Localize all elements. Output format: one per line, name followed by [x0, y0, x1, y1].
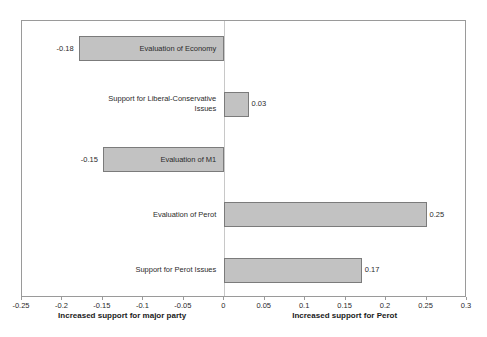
x-tick-mark [102, 297, 103, 300]
x-tick-label: -0.15 [93, 301, 110, 310]
x-tick-mark [21, 297, 22, 300]
bar-value-label: -0.18 [57, 44, 74, 54]
x-tick-label: 0 [221, 301, 225, 310]
bar-category-label: Evaluation of M1 [160, 155, 216, 165]
bar-value-label: -0.15 [81, 155, 98, 165]
x-tick-mark [264, 297, 265, 300]
x-tick-label: 0.3 [461, 301, 471, 310]
x-tick-mark [61, 297, 62, 300]
x-tick-label: 0.2 [380, 301, 390, 310]
bar-category-label: Support for Perot Issues [135, 265, 216, 275]
bar-value-label: 0.25 [430, 210, 445, 220]
x-axis-title-right: Increased support for Perot [292, 311, 397, 320]
x-tick-label: 0.05 [256, 301, 271, 310]
x-tick-mark [426, 297, 427, 300]
bar-category-label: Evaluation of Economy [140, 44, 217, 54]
bar[interactable] [224, 92, 248, 117]
x-tick-mark [223, 297, 224, 300]
bar-category-label: Support for Liberal-Conservative Issues [96, 94, 216, 114]
x-tick-label: -0.25 [12, 301, 29, 310]
plot-area: Evaluation of Economy-0.18Support for Li… [22, 21, 465, 296]
x-tick-label: 0.15 [337, 301, 352, 310]
x-tick-mark [304, 297, 305, 300]
x-tick-label: -0.2 [55, 301, 68, 310]
chart-screenshot: Evaluation of Economy-0.18Support for Li… [0, 0, 487, 337]
x-tick-label: 0.1 [299, 301, 309, 310]
bar-category-label: Evaluation of Perot [153, 210, 216, 220]
bar-value-label: 0.17 [365, 265, 380, 275]
x-tick-label: -0.05 [174, 301, 191, 310]
x-axis: -0.25-0.2-0.15-0.1-0.0500.050.10.150.20.… [21, 297, 466, 337]
bar[interactable] [224, 258, 362, 283]
x-tick-mark [183, 297, 184, 300]
x-tick-mark [385, 297, 386, 300]
plot-frame: Evaluation of Economy-0.18Support for Li… [21, 20, 466, 297]
x-tick-label: 0.25 [418, 301, 433, 310]
x-tick-label: -0.1 [136, 301, 149, 310]
bar[interactable] [224, 202, 426, 227]
x-tick-mark [142, 297, 143, 300]
x-tick-mark [466, 297, 467, 300]
zero-reference-line [224, 21, 225, 296]
x-tick-mark [345, 297, 346, 300]
bar-value-label: 0.03 [252, 99, 267, 109]
x-axis-title-left: Increased support for major party [58, 311, 186, 320]
